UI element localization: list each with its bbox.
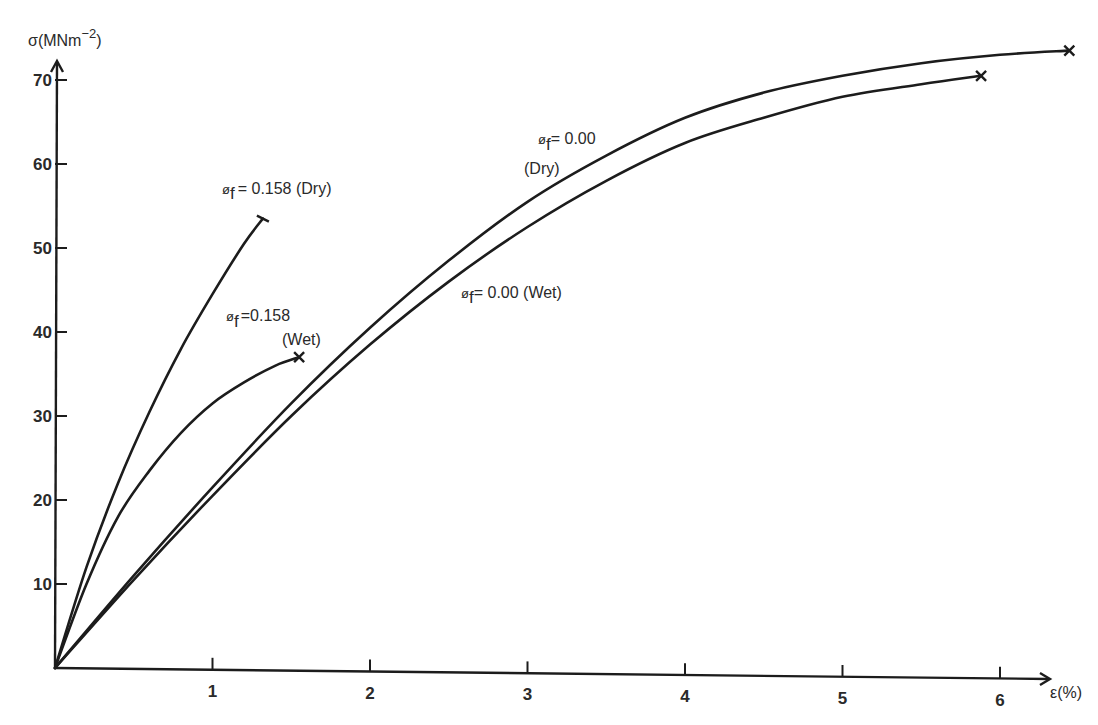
y-axis-title: σ(MNm−2) xyxy=(28,26,102,49)
curve-wet-000 xyxy=(55,76,981,668)
y-tick-label: 50 xyxy=(33,239,52,258)
label-wet-000: øf= 0.00 (Wet) xyxy=(461,284,562,307)
y-tick-label: 20 xyxy=(33,491,52,510)
y-tick-label: 30 xyxy=(33,407,52,426)
y-tick-label: 40 xyxy=(33,323,52,342)
label-dry-0158: øf= 0.158 (Dry) xyxy=(222,180,332,203)
label-wet-0158: øf=0.158 xyxy=(226,307,290,331)
y-ticks: 10203040506070 xyxy=(33,71,67,594)
x-axis-line xyxy=(55,668,1048,679)
label-wet-0158-line2: (Wet) xyxy=(282,331,321,348)
label-dry-000-line2: (Dry) xyxy=(524,160,560,177)
x-tick-label: 4 xyxy=(680,687,690,706)
y-axis-line xyxy=(55,62,57,668)
y-tick-label: 60 xyxy=(33,155,52,174)
y-tick-label: 10 xyxy=(33,575,52,594)
x-ticks: 123456 xyxy=(208,658,1005,710)
curve-dry-0158 xyxy=(55,219,263,668)
stress-strain-chart: σ(MNm−2) 10203040506070 123456 ε(%) øf= … xyxy=(0,0,1098,725)
x-tick-label: 1 xyxy=(208,682,217,701)
y-tick-label: 70 xyxy=(33,71,52,90)
x-tick-label: 2 xyxy=(365,684,374,703)
x-tick-label: 3 xyxy=(523,685,532,704)
axes xyxy=(51,61,1050,685)
x-tick-label: 6 xyxy=(995,691,1004,710)
x-axis-title: ε(%) xyxy=(1050,684,1082,701)
curve-wet-0158 xyxy=(55,357,299,668)
label-dry-000: øf= 0.00 xyxy=(538,130,596,154)
x-tick-label: 5 xyxy=(838,689,847,708)
